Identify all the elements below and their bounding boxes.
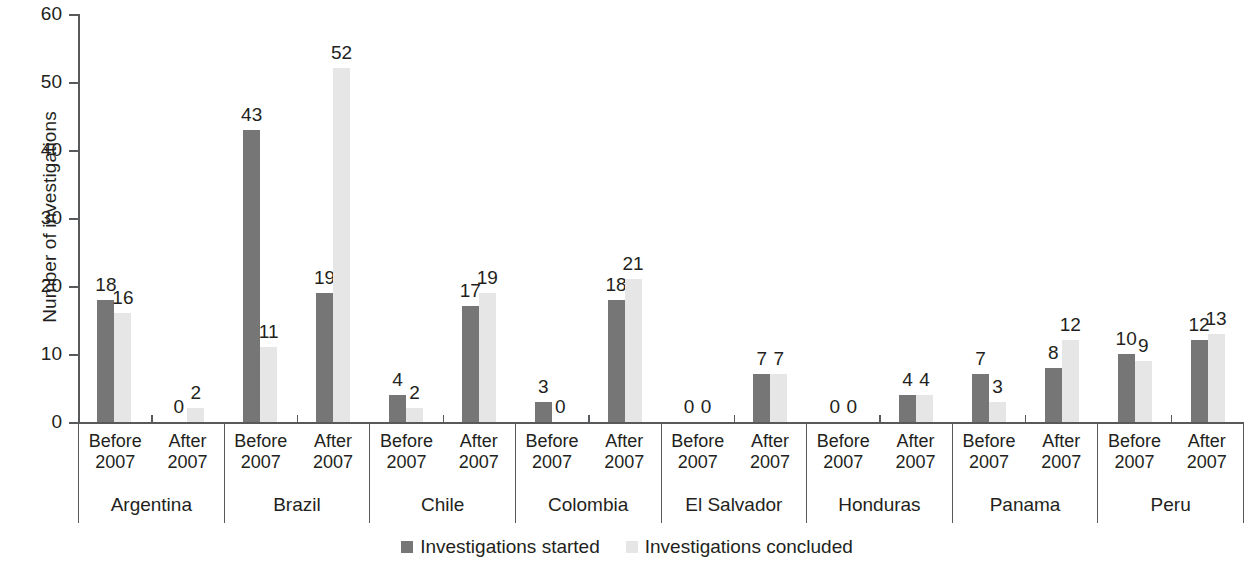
axis-period-row: Before2007After2007: [807, 423, 952, 485]
axis-period-row: Before2007After2007: [370, 423, 515, 485]
bar-value-label: 7: [774, 349, 785, 368]
axis-country-name: Peru: [1098, 485, 1243, 516]
axis-period-row: Before2007After2007: [79, 423, 224, 485]
axis-country-name: Brazil: [225, 485, 370, 516]
axis-period-label-line2: 2007: [1098, 452, 1170, 473]
bar-pair: 73: [972, 374, 1006, 422]
axis-country-cell: Before2007After2007Colombia: [515, 423, 661, 523]
axis-period-label: After2007: [297, 423, 369, 485]
axis-period-label-line2: 2007: [79, 452, 151, 473]
bar-concluded: 2: [187, 408, 204, 422]
bar-concluded: 4: [916, 395, 933, 422]
bar-value-label: 19: [314, 268, 335, 287]
bar-started: 7: [972, 374, 989, 422]
chart-legend: Investigations startedInvestigations con…: [0, 536, 1254, 558]
bar-value-label: 21: [622, 254, 643, 273]
bar-pair: 77: [753, 374, 787, 422]
bar-started: 4: [389, 395, 406, 422]
period-group: 73: [953, 14, 1026, 422]
bar-value-label: 16: [112, 288, 133, 307]
bar-value-label: 0: [684, 397, 695, 416]
bar-value-label: 13: [1205, 309, 1226, 328]
period-group: 02: [151, 14, 224, 422]
axis-period-label: Before2007: [807, 423, 879, 485]
axis-period-label: After2007: [151, 423, 223, 485]
bar-value-label: 2: [191, 383, 202, 402]
axis-period-label-line2: 2007: [588, 452, 660, 473]
y-axis-tick-label: 20: [8, 275, 62, 297]
bar-started: 10: [1118, 354, 1135, 422]
y-axis-tick-label: 10: [8, 343, 62, 365]
axis-period-label-line1: Before: [79, 431, 151, 452]
bar-value-label: 18: [605, 275, 626, 294]
bar-value-label: 0: [846, 397, 857, 416]
bar-value-label: 0: [829, 397, 840, 416]
axis-period-label-line2: 2007: [443, 452, 515, 473]
bar-value-label: 12: [1060, 315, 1081, 334]
bar-value-label: 9: [1138, 336, 1149, 355]
country-group: 73812: [953, 14, 1099, 422]
bar-value-label: 43: [241, 105, 262, 124]
period-group: 77: [734, 14, 807, 422]
bar-started: 43: [243, 130, 260, 422]
country-group: 43111952: [224, 14, 370, 422]
axis-country-name: Panama: [953, 485, 1098, 516]
country-group: 181602: [78, 14, 224, 422]
y-axis-tick-label: 40: [8, 139, 62, 161]
bar-value-label: 19: [477, 268, 498, 287]
axis-period-label-line1: Before: [1098, 431, 1170, 452]
axis-period-label: After2007: [734, 423, 806, 485]
bar-concluded: 12: [1062, 340, 1079, 422]
axis-period-label: Before2007: [370, 423, 442, 485]
axis-period-label-line1: Before: [516, 431, 588, 452]
bar-concluded: 7: [770, 374, 787, 422]
bar-concluded: 13: [1208, 334, 1225, 422]
bar-pair: 42: [389, 395, 423, 422]
axis-period-row: Before2007After2007: [1098, 423, 1243, 485]
bar-concluded: 2: [406, 408, 423, 422]
x-axis-labels: Before2007After2007ArgentinaBefore2007Af…: [78, 423, 1244, 523]
axis-period-label-line1: After: [151, 431, 223, 452]
bar-value-label: 3: [992, 377, 1003, 396]
axis-period-label-line1: After: [1171, 431, 1243, 452]
axis-period-label-line2: 2007: [225, 452, 297, 473]
period-group: 109: [1098, 14, 1171, 422]
axis-country-cell: Before2007After2007Chile: [369, 423, 515, 523]
bar-pair: 1952: [316, 68, 350, 422]
legend-swatch-icon: [626, 541, 638, 553]
bar-value-label: 0: [701, 397, 712, 416]
period-group: 44: [880, 14, 953, 422]
axis-country-name: Colombia: [516, 485, 661, 516]
bar-pair: 812: [1045, 340, 1079, 422]
axis-period-row: Before2007After2007: [225, 423, 370, 485]
bar-pair: 02: [170, 408, 204, 422]
axis-period-label-line2: 2007: [1025, 452, 1097, 473]
y-axis-tick-label: 50: [8, 71, 62, 93]
bar-started: 17: [462, 306, 479, 422]
bar-value-label: 7: [757, 349, 768, 368]
axis-country-name: Chile: [370, 485, 515, 516]
y-axis-tick-label: 0: [8, 411, 62, 433]
axis-period-label-line2: 2007: [807, 452, 879, 473]
bar-started: 18: [97, 300, 114, 422]
axis-country-cell: Before2007After2007Brazil: [224, 423, 370, 523]
bar-value-label: 0: [555, 397, 566, 416]
axis-country-cell: Before2007After2007El Salvador: [661, 423, 807, 523]
y-axis-tick: [69, 286, 78, 288]
bar-pair: 1719: [462, 293, 496, 422]
bar-started: 18: [608, 300, 625, 422]
axis-period-label-line1: After: [1025, 431, 1097, 452]
axis-period-label-line1: After: [734, 431, 806, 452]
bar-started: 4: [899, 395, 916, 422]
bar-started: 3: [535, 402, 552, 422]
axis-period-label-line2: 2007: [516, 452, 588, 473]
axis-period-label-line2: 2007: [370, 452, 442, 473]
bar-value-label: 8: [1048, 343, 1059, 362]
axis-period-row: Before2007After2007: [662, 423, 807, 485]
axis-country-name: Honduras: [807, 485, 952, 516]
bar-started: 7: [753, 374, 770, 422]
bar-value-label: 0: [174, 397, 185, 416]
bar-value-label: 7: [975, 349, 986, 368]
axis-period-row: Before2007After2007: [953, 423, 1098, 485]
axis-period-label: Before2007: [79, 423, 151, 485]
